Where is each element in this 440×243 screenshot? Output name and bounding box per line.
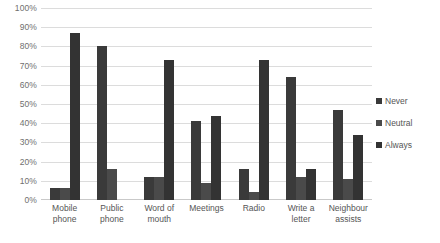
x-axis-category-label: Mobilephone (41, 203, 88, 243)
bar (249, 192, 259, 200)
bar-group (277, 8, 324, 200)
y-axis-tick-label: 60% (20, 80, 37, 90)
bar (211, 116, 221, 200)
legend-item[interactable]: Never (376, 96, 438, 106)
bar (144, 177, 154, 200)
y-axis-tick-label: 100% (15, 3, 37, 13)
y-axis-tick-label: 40% (20, 118, 37, 128)
bar-group (325, 8, 372, 200)
y-axis-tick-label: 0% (25, 195, 38, 205)
legend-item-label: Never (385, 96, 408, 106)
bar (164, 60, 174, 200)
x-axis-category-line: Meetings (184, 203, 229, 214)
x-axis-category-line: Mobile (42, 203, 87, 214)
y-axis-tick-label: 30% (20, 137, 37, 147)
x-axis-category-label: Radio (230, 203, 277, 243)
y-axis-tick-label: 90% (20, 22, 37, 32)
x-axis-category-line: phone (42, 214, 87, 225)
bar (343, 179, 353, 200)
x-axis-category-line: Neighbour (326, 203, 371, 214)
bar (107, 169, 117, 200)
x-axis-category-line: Write a (278, 203, 323, 214)
legend-item-label: Neutral (385, 118, 412, 128)
bar-group (136, 8, 183, 200)
legend-swatch-icon (376, 142, 382, 148)
bar (239, 169, 249, 200)
x-axis-category-label: Meetings (183, 203, 230, 243)
legend-swatch-icon (376, 98, 382, 104)
legend-swatch-icon (376, 120, 382, 126)
x-axis-category-line: Radio (231, 203, 276, 214)
y-axis-tick-label: 50% (20, 99, 37, 109)
bar (191, 121, 201, 200)
legend-item-label: Always (385, 140, 412, 150)
bar (70, 33, 80, 200)
x-axis-category-label: Write aletter (277, 203, 324, 243)
bar (60, 188, 70, 200)
y-axis-tick-label: 20% (20, 157, 37, 167)
x-axis-category-line: assists (326, 214, 371, 225)
y-axis: 100%90%80%70%60%50%40%30%20%10%0% (0, 8, 40, 200)
y-axis-tick-label: 10% (20, 176, 37, 186)
x-axis-category-label: Neighbourassists (325, 203, 372, 243)
x-axis-category-label: Publicphone (88, 203, 135, 243)
x-axis: MobilephonePublicphoneWord ofmouthMeetin… (41, 203, 372, 243)
bar (296, 177, 306, 200)
bar (306, 169, 316, 200)
bar (154, 177, 164, 200)
y-axis-tick-label: 70% (20, 61, 37, 71)
x-axis-category-line: phone (89, 214, 134, 225)
bar (50, 188, 60, 200)
legend-item[interactable]: Always (376, 140, 438, 150)
legend-item[interactable]: Neutral (376, 118, 438, 128)
bar-group (183, 8, 230, 200)
x-axis-category-label: Word ofmouth (136, 203, 183, 243)
plot-area (41, 8, 372, 200)
bar (259, 60, 269, 200)
bar-groups (41, 8, 372, 200)
bar (97, 46, 107, 200)
bar (286, 77, 296, 200)
x-axis-category-line: Word of (137, 203, 182, 214)
chart-legend: NeverNeutralAlways (376, 96, 438, 162)
bar (353, 135, 363, 200)
x-axis-category-line: Public (89, 203, 134, 214)
x-axis-category-line: mouth (137, 214, 182, 225)
bar-group (230, 8, 277, 200)
bar-group (88, 8, 135, 200)
x-axis-category-line: letter (278, 214, 323, 225)
bar (201, 183, 211, 200)
bar (333, 110, 343, 200)
bar-group (41, 8, 88, 200)
bar-chart: 100%90%80%70%60%50%40%30%20%10%0% Mobile… (0, 0, 440, 243)
y-axis-tick-label: 80% (20, 41, 37, 51)
